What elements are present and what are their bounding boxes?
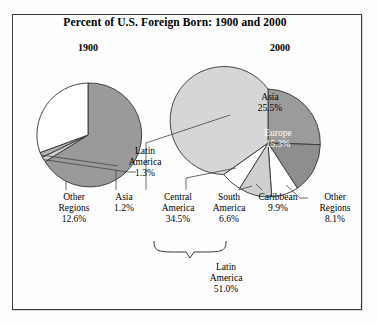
- slice-label-south-america-2000: South America 6.6%: [204, 192, 254, 225]
- slice-label-other-regions-1900: Other Regions 12.6%: [48, 192, 100, 225]
- slice-label-central-america-2000: Central America 34.5%: [152, 192, 204, 225]
- slice-label-other-regions-2000: Other Regions 8.1%: [310, 192, 360, 225]
- slice-label-asia-1900: Asia 1.2%: [104, 192, 144, 214]
- slice-label-europe-1900: Europe 84.9%: [38, 98, 102, 120]
- slice-label-caribbean-2000: Caribbean 9.9%: [250, 192, 306, 214]
- slice-label-asia-2000: Asia 25.5%: [244, 92, 296, 114]
- slice-label-europe-2000: Europe 15.3%: [250, 128, 306, 150]
- slice-label-latin-america-1900: Latin America 1.3%: [118, 146, 172, 179]
- figure-root: Percent of U.S. Foreign Born: 1900 and 2…: [0, 0, 377, 323]
- group-label-latin-america-2000: Latin America 51.0%: [198, 262, 254, 295]
